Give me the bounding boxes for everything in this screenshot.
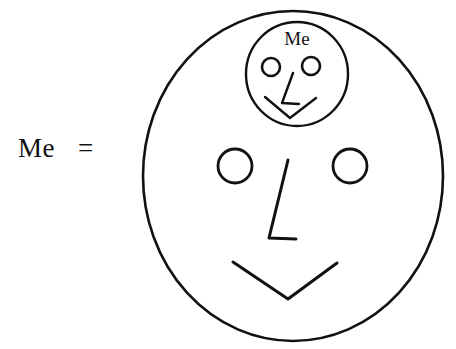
outer-face-group: Me [143, 11, 443, 341]
inner-face-label: Me [284, 28, 309, 49]
equation-equals-sign: = [78, 133, 94, 163]
outer-face-nose [269, 160, 296, 239]
outer-face-right-eye [333, 149, 367, 183]
inner-face-group: Me [246, 22, 348, 126]
me-equals-face-diagram: Me = Me [0, 0, 456, 349]
outer-face-left-eye [218, 149, 252, 183]
equation-subject-label: Me [18, 133, 55, 163]
diagram-canvas: Me = Me [0, 0, 456, 349]
inner-face-right-eye [302, 57, 320, 75]
outer-face-outline [143, 11, 443, 341]
outer-face-mouth [233, 262, 337, 299]
inner-face-mouth [265, 97, 316, 118]
inner-face-left-eye [262, 58, 280, 76]
inner-face-nose [282, 73, 299, 104]
